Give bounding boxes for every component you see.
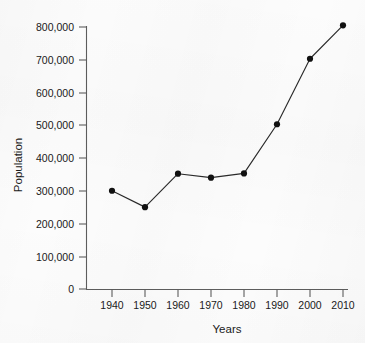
data-point-marker[interactable]: 1970: 340,000 xyxy=(208,175,214,181)
data-point-marker[interactable]: 1990: 503,000 xyxy=(274,121,280,127)
y-axis xyxy=(79,26,87,290)
y-tick-label: 200,000 xyxy=(36,218,74,230)
data-point-marker[interactable]: 1960: 352,000 xyxy=(175,171,181,177)
x-tick-label: 1990 xyxy=(265,299,289,311)
y-axis-title: Population xyxy=(12,138,24,192)
x-tick-label: 1960 xyxy=(166,299,190,311)
x-axis-title: Years xyxy=(213,323,242,335)
y-tick-label: 100,000 xyxy=(36,251,74,263)
y-axis-tick-labels: 800,000 700,000 600,000 500,000 400,000 … xyxy=(36,21,74,295)
x-tick-label: 2000 xyxy=(298,299,322,311)
x-tick-label: 2010 xyxy=(331,299,355,311)
chart-plot-area: 800,000 700,000 600,000 500,000 400,000 … xyxy=(0,0,365,343)
data-point-marker[interactable]: 1980: 353,000 xyxy=(241,170,247,176)
x-axis xyxy=(87,290,349,298)
data-series-population: 1940: 300,0001950: 250,0001960: 352,0001… xyxy=(109,22,346,210)
x-tick-label: 1940 xyxy=(100,299,124,311)
data-point-marker[interactable]: 2000: 703,000 xyxy=(307,56,313,62)
y-tick-label: 600,000 xyxy=(36,87,74,99)
x-axis-tick-labels: 1940 1950 1960 1970 1980 1990 2000 2010 xyxy=(100,299,355,311)
y-tick-label: 400,000 xyxy=(36,152,74,164)
data-point-marker[interactable]: 1940: 300,000 xyxy=(109,188,115,194)
x-tick-label: 1950 xyxy=(133,299,157,311)
data-point-marker[interactable]: 1950: 250,000 xyxy=(142,204,148,210)
series-line-population xyxy=(112,25,343,207)
population-line-chart: 800,000 700,000 600,000 500,000 400,000 … xyxy=(0,0,365,343)
y-tick-label: 700,000 xyxy=(36,54,74,66)
x-tick-label: 1970 xyxy=(199,299,223,311)
y-tick-label: 800,000 xyxy=(36,21,74,33)
y-tick-label: 0 xyxy=(68,283,74,295)
y-tick-label: 300,000 xyxy=(36,185,74,197)
data-point-marker[interactable]: 2010: 805,000 xyxy=(340,22,346,28)
y-tick-label: 500,000 xyxy=(36,119,74,131)
x-tick-label: 1980 xyxy=(232,299,256,311)
